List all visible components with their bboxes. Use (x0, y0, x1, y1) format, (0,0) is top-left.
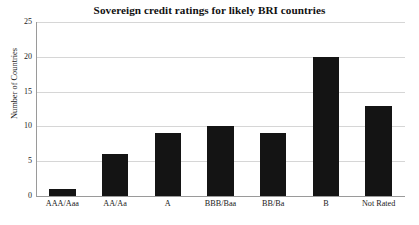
x-tick-label: BB/Ba (247, 199, 300, 209)
gridline-0 (36, 196, 405, 197)
x-tick-label: B (300, 199, 353, 209)
y-tick-label: 5 (6, 157, 32, 165)
bars-layer (36, 22, 405, 196)
bar (102, 154, 128, 196)
bar (49, 189, 75, 196)
bar (260, 133, 286, 196)
y-axis-tick-labels: 0510152025 (0, 22, 32, 196)
x-tick-label: AA/Aa (89, 199, 142, 209)
bar (313, 57, 339, 196)
y-tick-label: 10 (6, 122, 32, 130)
chart-title: Sovereign credit ratings for likely BRI … (0, 3, 419, 17)
x-tick-label: A (141, 199, 194, 209)
x-tick-label: Not Rated (352, 199, 405, 209)
bar (207, 126, 233, 196)
bar (155, 133, 181, 196)
bar (365, 106, 391, 196)
y-tick-label: 25 (6, 18, 32, 26)
y-tick-label: 15 (6, 88, 32, 96)
y-tick-label: 0 (6, 192, 32, 200)
y-tick-label: 20 (6, 53, 32, 61)
x-tick-label: BBB/Baa (194, 199, 247, 209)
x-axis-tick-labels: AAA/AaaAA/AaABBB/BaaBB/BaBNot Rated (36, 199, 405, 213)
x-tick-label: AAA/Aaa (36, 199, 89, 209)
bar-chart: Sovereign credit ratings for likely BRI … (0, 0, 419, 225)
